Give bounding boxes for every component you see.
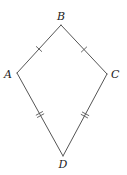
edge-cd <box>63 74 107 156</box>
vertex-label-d: D <box>58 158 68 171</box>
vertex-labels: B A C D <box>3 10 120 171</box>
kite-edges <box>17 25 107 156</box>
kite-diagram: B A C D <box>0 0 127 175</box>
congruence-tick-marks <box>36 46 89 118</box>
edge-da <box>17 73 63 156</box>
vertex-label-b: B <box>56 10 65 23</box>
vertex-label-a: A <box>3 68 12 81</box>
vertex-label-c: C <box>111 68 120 81</box>
